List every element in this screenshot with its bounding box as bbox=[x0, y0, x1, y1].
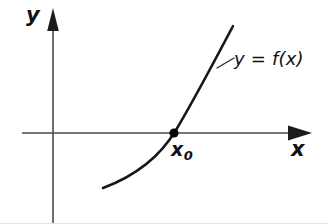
root-point-dot bbox=[169, 128, 178, 137]
y-axis-label: y bbox=[26, 5, 40, 26]
root-point-label: x0 bbox=[171, 140, 193, 162]
x-axis-label: x bbox=[291, 139, 305, 160]
function-equation-label: y = f(x) bbox=[234, 50, 304, 68]
function-curve bbox=[103, 26, 233, 188]
function-graph-figure: y x x0 y = f(x) bbox=[0, 0, 328, 224]
root-point-label-subscript: 0 bbox=[183, 148, 193, 163]
function-label-leader-line bbox=[217, 58, 234, 68]
graph-canvas bbox=[0, 0, 328, 224]
root-point-label-base: x bbox=[171, 138, 183, 160]
scan-edge-divider bbox=[0, 223, 328, 224]
y-axis-arrow-icon bbox=[47, 8, 59, 31]
